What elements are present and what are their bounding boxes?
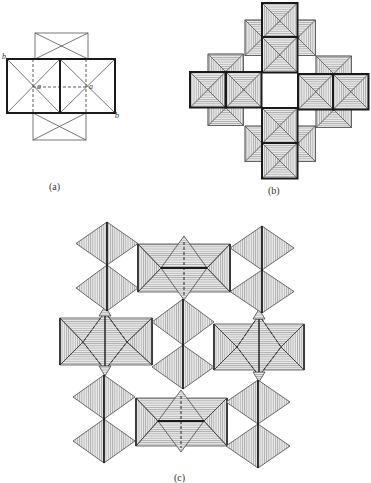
axis-label-b-left: b [2, 52, 6, 61]
crystal-structure-figure [0, 0, 371, 483]
octahedron-upper [258, 380, 290, 424]
small-apex [99, 366, 111, 376]
octahedron-upper [76, 222, 107, 265]
octahedron-lower [104, 419, 135, 463]
octahedron-lower [107, 265, 138, 311]
octahedron-lower [230, 270, 262, 313]
octahedron-upper [104, 375, 135, 419]
octahedron-upper [73, 375, 104, 419]
octahedron-lower [152, 345, 183, 389]
axis-label-a-right: a [89, 82, 93, 91]
panel-c-diagram [60, 222, 304, 468]
octahedron-upper [262, 226, 294, 270]
octahedron-upper [107, 222, 138, 265]
panel-b-label: (b) [268, 185, 280, 196]
panel-a-label: (a) [49, 181, 60, 192]
octahedron-lower [73, 419, 104, 463]
octahedron-upper [230, 226, 262, 270]
octahedron-upper [226, 380, 258, 424]
octahedron-lower [183, 345, 214, 389]
octahedron-lower [226, 424, 258, 468]
panel-a-diagram [7, 33, 115, 140]
octahedron-upper [152, 299, 183, 345]
panel-c-label: (c) [174, 472, 185, 483]
octahedron-lower [76, 265, 107, 311]
octahedron-lower [262, 270, 294, 313]
axis-label-a-left: a [37, 82, 41, 91]
axis-label-b-right: b [115, 111, 119, 120]
panel-b-diagram [190, 3, 369, 179]
octahedron-lower [258, 424, 290, 468]
octahedron-upper [183, 299, 214, 345]
